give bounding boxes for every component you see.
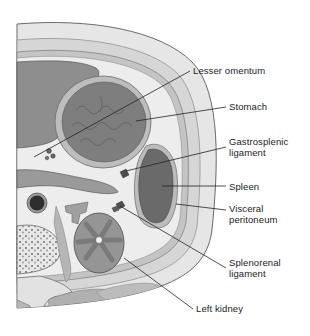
label-stomach: Stomach	[229, 101, 267, 112]
aorta	[27, 193, 47, 213]
stomach	[55, 76, 151, 168]
label-spleen: Spleen	[229, 181, 259, 192]
label-splenorenal-ligament: Splenorenal ligament	[229, 257, 281, 279]
label-left-kidney: Left kidney	[196, 303, 243, 314]
label-lesser-omentum: Lesser omentum	[193, 65, 265, 76]
abdomen-cross-section-diagram	[0, 0, 310, 336]
left-kidney	[74, 213, 124, 273]
label-visceral-peritoneum: Visceral peritoneum	[229, 203, 278, 225]
label-gastrosplenic-ligament: Gastrosplenic ligament	[229, 136, 288, 158]
